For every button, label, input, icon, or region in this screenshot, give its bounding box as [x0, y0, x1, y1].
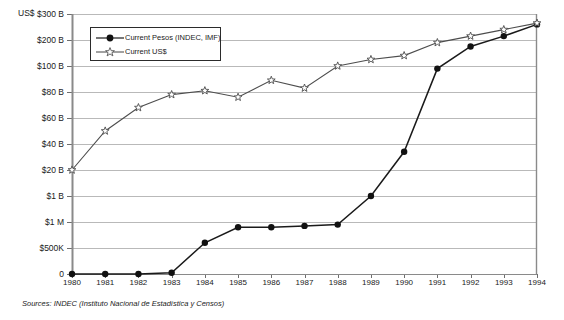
- legend-item-pesos: Current Pesos (INDEC, IMF): [95, 31, 219, 45]
- data-point-marker: [102, 271, 108, 277]
- y-axis-tick-label: $20 B: [22, 165, 64, 175]
- y-axis-tick-label: $500K: [22, 243, 64, 253]
- data-point-marker: [235, 224, 241, 230]
- data-point-marker: [400, 52, 408, 59]
- x-axis-tick-label: 1980: [63, 278, 81, 287]
- x-axis-tick-label: 1990: [395, 278, 413, 287]
- y-axis-tick-label: 0: [22, 269, 64, 279]
- data-point-marker: [368, 193, 374, 199]
- data-point-marker: [367, 55, 375, 62]
- x-axis-tick-label: 1984: [196, 278, 214, 287]
- chart-figure: US$ $300 B$200 B$100 B$80 B$60 B$40 B$20…: [0, 0, 564, 320]
- y-axis-tick-label: $100 B: [22, 61, 64, 71]
- x-axis-tick-label: 1985: [229, 278, 247, 287]
- data-point-marker: [500, 26, 508, 33]
- x-axis-tick-label: 1983: [163, 278, 181, 287]
- data-point-marker: [202, 240, 208, 246]
- y-axis-tick-label: $300 B: [22, 9, 64, 19]
- data-point-marker: [268, 224, 274, 230]
- data-point-marker: [135, 271, 141, 277]
- x-axis-tick-label: 1989: [362, 278, 380, 287]
- x-axis-tick-label: 1986: [262, 278, 280, 287]
- legend-label-pesos: Current Pesos (INDEC, IMF): [125, 34, 220, 42]
- y-axis-tick-label: $80 B: [22, 87, 64, 97]
- data-point-marker: [234, 93, 242, 100]
- open-star-marker-icon: [95, 46, 125, 58]
- y-axis-tick-label: $200 B: [22, 35, 64, 45]
- data-point-marker: [433, 39, 441, 46]
- data-point-marker: [267, 76, 275, 83]
- chart-legend: Current Pesos (INDEC, IMF) Current US$: [90, 27, 221, 61]
- y-axis-tick-label: $1 B: [22, 191, 64, 201]
- legend-item-usd: Current US$: [95, 45, 219, 59]
- data-point-marker: [168, 91, 176, 98]
- x-axis-tick-label: 1993: [495, 278, 513, 287]
- x-axis-tick-label: 1991: [428, 278, 446, 287]
- data-point-marker: [401, 149, 407, 155]
- x-axis-tick-label: 1982: [130, 278, 148, 287]
- data-point-marker: [467, 32, 475, 39]
- data-point-marker: [69, 271, 75, 277]
- data-point-marker: [501, 33, 507, 39]
- legend-label-usd: Current US$: [125, 48, 167, 56]
- y-axis-tick-label: $40 B: [22, 139, 64, 149]
- x-axis-tick-label: 1992: [462, 278, 480, 287]
- data-point-marker: [168, 270, 174, 276]
- source-note: Sources: INDEC (Instituto Nacional de Es…: [22, 299, 224, 308]
- series-line: [72, 24, 537, 274]
- filled-circle-marker-icon: [95, 32, 125, 44]
- data-point-marker: [434, 65, 440, 71]
- y-axis-tick-label: $60 B: [22, 113, 64, 123]
- data-point-marker: [101, 127, 109, 134]
- x-axis-tick-label: 1987: [296, 278, 314, 287]
- data-point-marker: [467, 43, 473, 49]
- data-point-marker: [301, 84, 309, 91]
- x-axis-tick-label: 1988: [329, 278, 347, 287]
- x-axis-tick-label: 1994: [528, 278, 546, 287]
- data-point-marker: [335, 221, 341, 227]
- y-axis-tick-labels: $300 B$200 B$100 B$80 B$60 B$40 B$20 B$1…: [14, 0, 64, 320]
- y-axis-tick-label: $1 M: [22, 217, 64, 227]
- data-point-marker: [301, 223, 307, 229]
- x-axis-tick-label: 1981: [96, 278, 114, 287]
- plot-area: [0, 0, 564, 320]
